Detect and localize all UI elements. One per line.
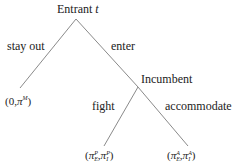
edge-stay-out (20, 19, 76, 88)
edge-label-fight: fight (92, 100, 115, 113)
edge-accommodate (138, 87, 188, 146)
payoff-fight: (πPE,πPI) (85, 149, 113, 162)
entrant-var: t (95, 2, 98, 16)
edge-enter (76, 19, 138, 87)
edge-label-stay-out: stay out (7, 40, 45, 53)
node-entrant-label: Entrant t (57, 3, 99, 16)
game-tree-edges (0, 0, 234, 166)
node-incumbent-label: Incumbent (141, 73, 192, 86)
edge-label-enter: enter (111, 40, 135, 53)
entrant-text: Entrant (57, 2, 92, 16)
payoff-accommodate: (πAE,πAI) (167, 149, 195, 162)
edge-fight (104, 87, 138, 146)
edge-label-accommodate: accommodate (165, 100, 232, 113)
payoff-stay-out: (0,πM) (5, 92, 31, 108)
